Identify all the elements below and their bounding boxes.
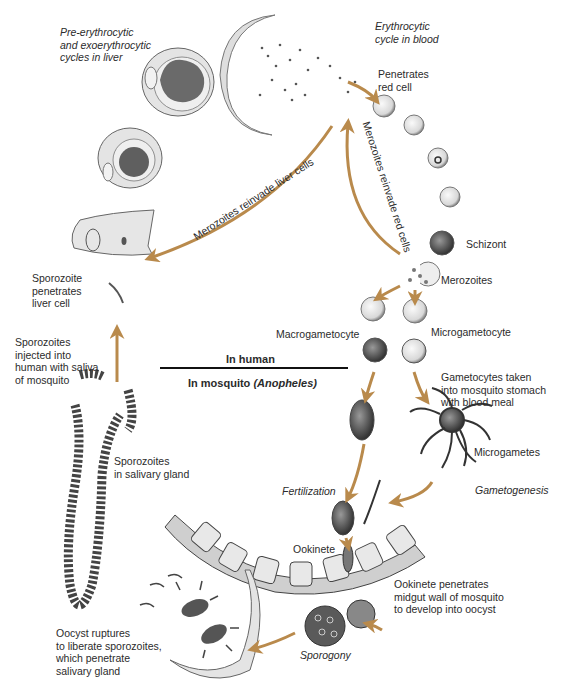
sporozoite (109, 283, 123, 303)
ookinete-penetrates-label: Ookinete penetrates midgut wall of mosqu… (394, 578, 504, 616)
liver-cell (72, 210, 154, 255)
sporozoites-gland-label: Sporozoites in salivary gland (114, 455, 189, 480)
schizont-label: Schizont (466, 238, 506, 251)
oocyst-large (305, 606, 345, 646)
macrogametocyte-label: Macrogametocyte (276, 328, 359, 341)
merozoites-label: Merozoites (441, 274, 492, 287)
macrogametocyte-mature (363, 338, 387, 362)
ookinete-label: Ookinete (293, 543, 335, 556)
microgametocyte-mature (402, 339, 426, 363)
in-human-label: In human (226, 353, 275, 366)
ruptured-red-cell (220, 15, 356, 135)
liver-schizont-small (98, 128, 162, 188)
in-mosquito-label: In mosquito (Anopheles) (188, 377, 317, 390)
merozoites-cell (408, 262, 440, 286)
macrogamete (350, 400, 374, 440)
gametogenesis-label: Gametogenesis (475, 484, 549, 497)
microgametes-label: Microgametes (474, 446, 540, 459)
microgametocyte-cell (403, 299, 427, 323)
sporozoites-injected-label: Sporozoites injected into human with sal… (15, 336, 98, 386)
microgametocyte-label: Microgametocyte (431, 326, 511, 339)
anopheles-text: (Anopheles) (253, 377, 317, 389)
in-mosquito-text: In mosquito (188, 377, 250, 389)
gametocytes-taken-label: Gametocytes taken into mosquito stomach … (441, 371, 546, 409)
macrogametocyte-cell (361, 297, 385, 321)
liver-cycle-label: Pre-erythrocytic and exoerythrocytic cyc… (60, 26, 151, 64)
fertilization-label: Fertilization (282, 485, 336, 498)
zygote (332, 501, 354, 535)
penetrates-red-cell-label: Penetrates red cell (378, 68, 429, 93)
salivary-gland (68, 373, 132, 605)
blood-cycle-label: Erythrocytic cycle in blood (375, 20, 439, 45)
oocyst-ruptures-label: Oocyst ruptures to liberate sporozoites,… (56, 627, 162, 677)
sporozoite-penetrates-label: Sporozoite penetrates liver cell (32, 272, 82, 310)
sporogony-label: Sporogony (300, 649, 351, 662)
liver-schizont-large (142, 48, 214, 116)
microgamete (364, 480, 380, 524)
